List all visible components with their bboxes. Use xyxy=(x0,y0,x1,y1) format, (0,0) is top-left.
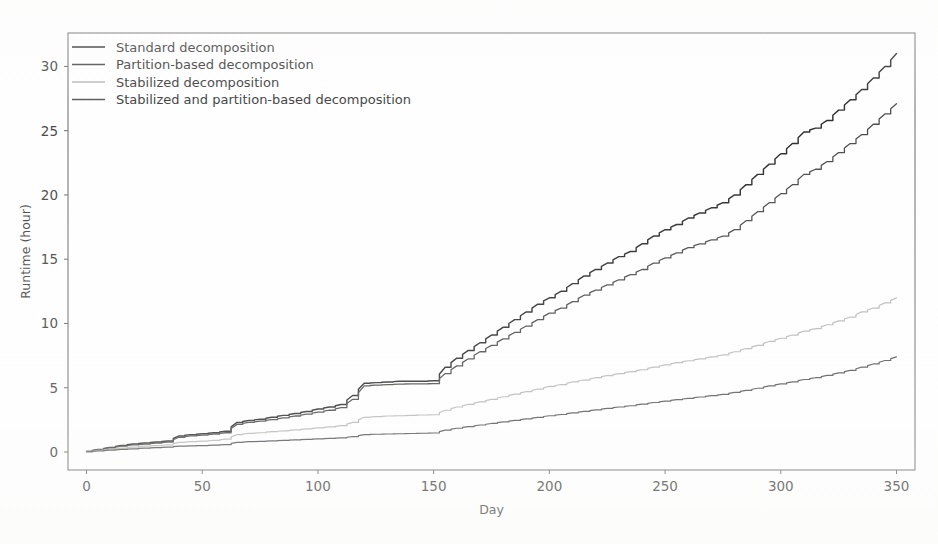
x-tick-label: 150 xyxy=(421,478,447,494)
x-tick-label: 100 xyxy=(305,478,331,494)
x-tick-label: 200 xyxy=(536,478,562,494)
y-tick-label: 0 xyxy=(49,444,58,460)
y-tick-label: 10 xyxy=(41,315,58,331)
y-tick-label: 5 xyxy=(49,380,58,396)
legend-label-3: Stabilized and partition-based decomposi… xyxy=(116,92,411,107)
y-tick-label: 30 xyxy=(41,58,58,74)
x-tick-label: 300 xyxy=(768,478,794,494)
legend-label-1: Partition-based decomposition xyxy=(116,57,314,72)
x-tick-label: 0 xyxy=(82,478,91,494)
y-tick-label: 15 xyxy=(41,251,58,267)
line-chart: 050100150200250300350051015202530DayRunt… xyxy=(0,0,938,544)
y-axis-title: Runtime (hour) xyxy=(18,204,33,299)
y-tick-label: 20 xyxy=(41,187,58,203)
x-tick-label: 50 xyxy=(194,478,211,494)
x-axis-title: Day xyxy=(479,502,504,517)
legend-label-0: Standard decomposition xyxy=(116,40,275,55)
y-tick-label: 25 xyxy=(41,123,58,139)
figure-container: 050100150200250300350051015202530DayRunt… xyxy=(0,0,938,544)
x-tick-label: 350 xyxy=(884,478,910,494)
legend-label-2: Stabilized decomposition xyxy=(116,75,279,90)
x-tick-label: 250 xyxy=(652,478,678,494)
